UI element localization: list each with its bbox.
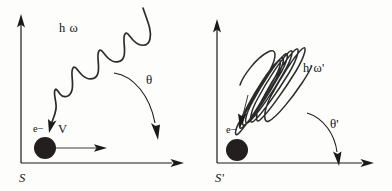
left-y-axis — [17, 14, 25, 163]
right-theta-arrowhead — [333, 152, 342, 167]
panel-right: h ω' θ' e− S' — [213, 19, 374, 185]
right-x-axis-arrowhead — [361, 159, 375, 167]
left-x-axis-arrowhead — [171, 159, 185, 167]
right-y-axis — [213, 19, 221, 163]
left-scattering-angle — [114, 73, 160, 140]
left-theta-arrowhead — [151, 123, 160, 140]
right-photon-energy-label: h ω' — [303, 61, 325, 75]
left-frame-label: S — [19, 171, 26, 185]
left-electron-label: e− — [33, 123, 44, 134]
right-photon-wave — [236, 48, 312, 135]
left-x-axis — [21, 159, 184, 167]
left-velocity-vector — [56, 144, 107, 151]
right-electron-label: e− — [226, 124, 237, 135]
right-electron-dot — [226, 139, 248, 161]
panel-left: h ω θ e− V S — [17, 8, 184, 185]
left-photon-energy-label: h ω — [59, 21, 78, 35]
right-frame-label: S' — [215, 171, 224, 185]
physics-diagram: h ω θ e− V S — [0, 0, 392, 191]
left-velocity-label: V — [58, 122, 67, 136]
left-angle-label: θ — [146, 72, 152, 87]
doppler-aberration-figure: h ω θ e− V S — [0, 0, 392, 191]
right-angle-label: θ' — [330, 116, 339, 131]
left-electron-dot — [34, 137, 56, 159]
